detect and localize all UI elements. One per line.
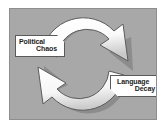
node-language-decay-line-2: Decay (117, 85, 157, 92)
node-language-decay-line-1: Language (117, 78, 157, 85)
node-political-chaos-line-1: Political (19, 38, 61, 45)
node-political-chaos-line-2: Chaos (19, 45, 61, 52)
diagram-screenshot: Political Chaos Language Decay (0, 0, 165, 130)
diagram-panel: Political Chaos Language Decay (9, 8, 157, 120)
cycle-arrows-svg (10, 9, 157, 120)
cycle-graphic (10, 9, 157, 120)
node-political-chaos[interactable]: Political Chaos (15, 35, 65, 57)
node-language-decay[interactable]: Language Decay (110, 75, 157, 97)
